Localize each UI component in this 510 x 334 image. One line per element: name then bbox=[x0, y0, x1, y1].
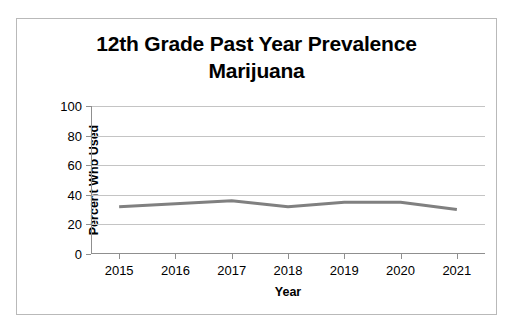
y-axis-tick-label: 20 bbox=[68, 217, 82, 232]
chart-title: 12th Grade Past Year Prevalence Marijuan… bbox=[17, 31, 496, 85]
x-axis-label: Year bbox=[91, 285, 485, 299]
x-axis-tick-label: 2021 bbox=[442, 263, 471, 278]
x-axis-tick-label: 2019 bbox=[330, 263, 359, 278]
y-axis-tick-label: 0 bbox=[75, 247, 82, 262]
data-series-marijuana bbox=[91, 106, 485, 254]
plot-area: 020406080100 201520162017201820192020202… bbox=[91, 106, 485, 254]
x-axis-tick-label: 2015 bbox=[105, 263, 134, 278]
y-axis-tick-mark bbox=[86, 254, 91, 255]
x-axis-tick-mark bbox=[175, 254, 176, 259]
x-axis-tick-mark bbox=[288, 254, 289, 259]
x-axis-tick-mark bbox=[232, 254, 233, 259]
y-axis-tick-label: 80 bbox=[68, 128, 82, 143]
x-axis-tick-label: 2018 bbox=[274, 263, 303, 278]
x-axis-tick-mark bbox=[457, 254, 458, 259]
x-axis-tick-mark bbox=[344, 254, 345, 259]
y-axis-tick-label: 100 bbox=[60, 99, 82, 114]
x-axis-label-text: Year bbox=[275, 285, 301, 299]
chart-title-line-1: 12th Grade Past Year Prevalence bbox=[96, 32, 416, 55]
chart-figure: 12th Grade Past Year Prevalence Marijuan… bbox=[16, 18, 497, 315]
x-axis-tick-label: 2016 bbox=[161, 263, 190, 278]
x-axis-tick-mark bbox=[401, 254, 402, 259]
x-axis-tick-label: 2017 bbox=[217, 263, 246, 278]
x-axis-tick-mark bbox=[119, 254, 120, 259]
y-axis-tick-label: 40 bbox=[68, 187, 82, 202]
y-axis-tick-label: 60 bbox=[68, 158, 82, 173]
chart-title-line-2: Marijuana bbox=[17, 58, 496, 85]
x-axis-tick-label: 2020 bbox=[386, 263, 415, 278]
